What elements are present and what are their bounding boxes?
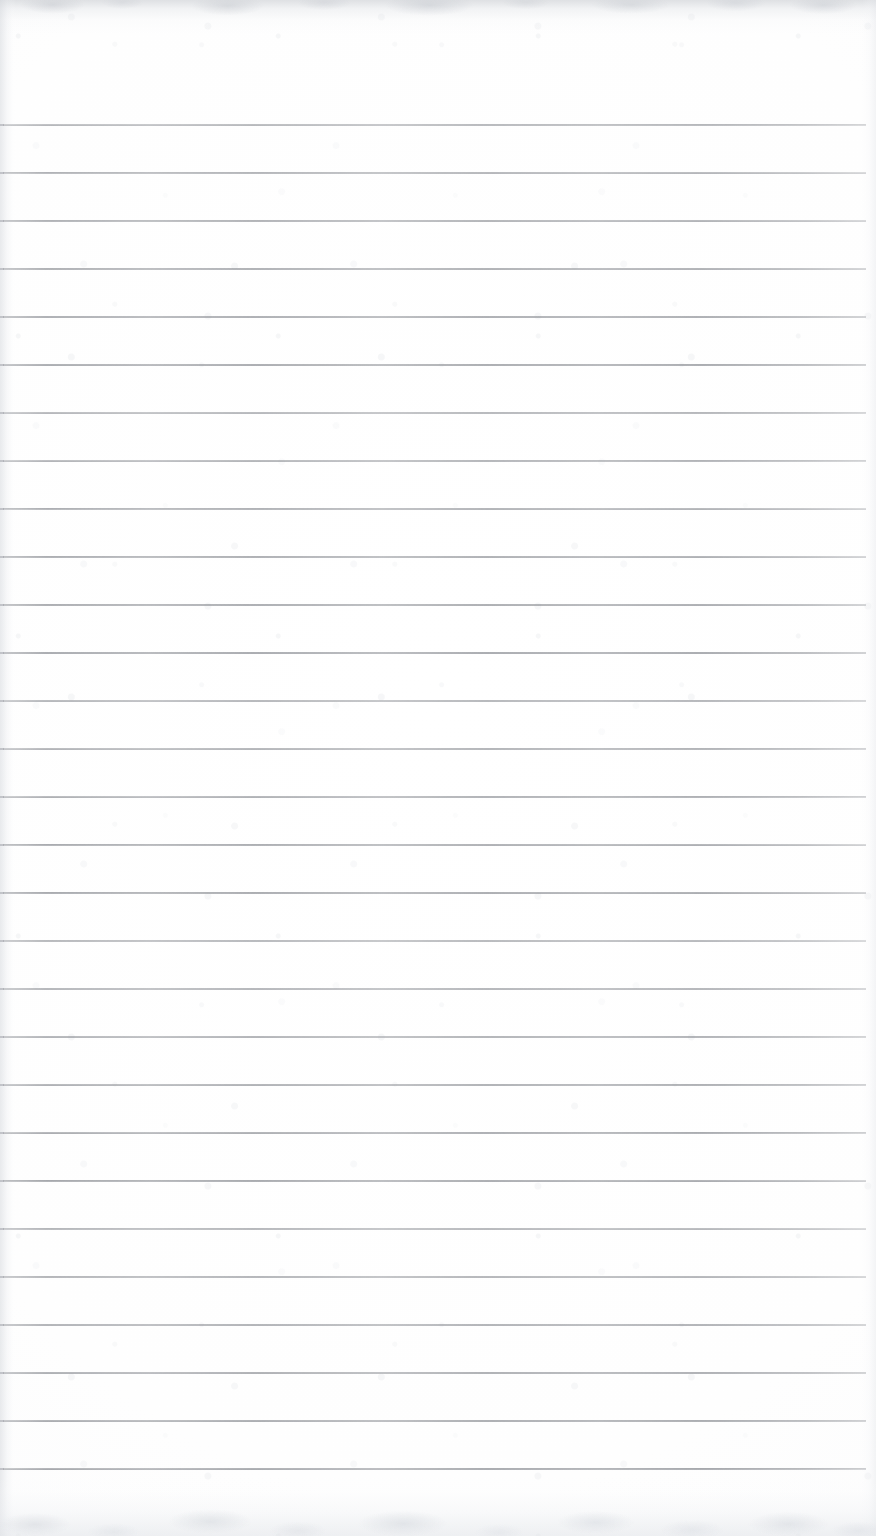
ruled-line-left-cap	[0, 940, 4, 942]
ruled-line-left-cap	[0, 796, 4, 798]
notepad-line-row[interactable]	[3, 848, 866, 890]
ruled-line	[3, 1276, 866, 1278]
notepad-line-row[interactable]	[3, 464, 866, 506]
ruled-line	[3, 1420, 866, 1422]
ruled-line	[3, 940, 866, 942]
ruled-line-left-cap	[0, 1180, 4, 1182]
notepad-line-row[interactable]	[3, 656, 866, 698]
ruled-line	[3, 364, 866, 366]
ruled-line	[3, 1372, 866, 1374]
ruled-line-left-cap	[0, 892, 4, 894]
notepad-line-row[interactable]	[3, 272, 866, 314]
ruled-line-left-cap	[0, 700, 4, 702]
notepad-line-row[interactable]	[3, 1328, 866, 1370]
ruled-line-left-cap	[0, 1132, 4, 1134]
ruled-line-left-cap	[0, 1324, 4, 1326]
ruled-line-left-cap	[0, 220, 4, 222]
ruled-line-left-cap	[0, 1228, 4, 1230]
notepad-line-row[interactable]	[3, 944, 866, 986]
ruled-line	[3, 316, 866, 318]
notepad-line-row[interactable]	[3, 1136, 866, 1178]
ruled-line-left-cap	[0, 604, 4, 606]
ruled-line-left-cap	[0, 1036, 4, 1038]
ruled-line	[3, 604, 866, 606]
ruled-line-left-cap	[0, 172, 4, 174]
ruled-line-left-cap	[0, 1372, 4, 1374]
notepad-line-row[interactable]	[3, 704, 866, 746]
ruled-line	[3, 460, 866, 462]
notepad-line-row[interactable]	[3, 752, 866, 794]
ruled-line	[3, 220, 866, 222]
ruled-line	[3, 748, 866, 750]
notepad-line-row[interactable]	[3, 1424, 866, 1466]
notepad-line-row[interactable]	[3, 80, 866, 122]
ruled-line-left-cap	[0, 988, 4, 990]
ruled-line-left-cap	[0, 1420, 4, 1422]
ruled-line-left-cap	[0, 124, 4, 126]
ruled-line	[3, 124, 866, 126]
ruled-line	[3, 1324, 866, 1326]
ruled-line-left-cap	[0, 412, 4, 414]
ruled-line	[3, 412, 866, 414]
ruled-line-left-cap	[0, 1084, 4, 1086]
notepad-line-row[interactable]	[3, 128, 866, 170]
notepad-line-row[interactable]	[3, 992, 866, 1034]
ruled-line-left-cap	[0, 1468, 4, 1470]
ruled-line	[3, 556, 866, 558]
ruled-line-left-cap	[0, 1276, 4, 1278]
ruled-line	[3, 1468, 866, 1470]
notepad-line-row[interactable]	[3, 800, 866, 842]
ruled-line	[3, 1180, 866, 1182]
ruled-line	[3, 844, 866, 846]
notepad-line-row[interactable]	[3, 224, 866, 266]
ruled-line-left-cap	[0, 364, 4, 366]
ruled-line	[3, 1036, 866, 1038]
ruled-line	[3, 652, 866, 654]
notepad-line-row[interactable]	[3, 512, 866, 554]
notepad-line-row[interactable]	[3, 896, 866, 938]
ruled-line	[3, 988, 866, 990]
ruled-line	[3, 508, 866, 510]
notepad-line-row[interactable]	[3, 1184, 866, 1226]
ruled-line-left-cap	[0, 748, 4, 750]
ruled-line	[3, 1228, 866, 1230]
ruled-line-left-cap	[0, 652, 4, 654]
ruled-line	[3, 172, 866, 174]
notepad-line-row[interactable]	[3, 1232, 866, 1274]
ruled-line-left-cap	[0, 316, 4, 318]
ruled-line-left-cap	[0, 268, 4, 270]
ruled-line	[3, 796, 866, 798]
notepad-line-row[interactable]	[3, 416, 866, 458]
notepad-line-row[interactable]	[3, 560, 866, 602]
notepad-line-row[interactable]	[3, 1376, 866, 1418]
notepad-line-row[interactable]	[3, 320, 866, 362]
ruled-line-left-cap	[0, 844, 4, 846]
ruled-line	[3, 1132, 866, 1134]
notepad-line-row[interactable]	[3, 1040, 866, 1082]
ruled-line	[3, 700, 866, 702]
ruled-line-left-cap	[0, 556, 4, 558]
ruled-line	[3, 1084, 866, 1086]
ruled-line	[3, 268, 866, 270]
notepad-line-row[interactable]	[3, 608, 866, 650]
ruled-line	[3, 892, 866, 894]
ruled-line-layer	[0, 0, 876, 1536]
scanned-page	[0, 0, 876, 1536]
notepad-line-row[interactable]	[3, 1280, 866, 1322]
ruled-line-left-cap	[0, 460, 4, 462]
notepad-line-row[interactable]	[3, 1088, 866, 1130]
ruled-line-left-cap	[0, 508, 4, 510]
notepad-line-row[interactable]	[3, 176, 866, 218]
notepad-line-row[interactable]	[3, 368, 866, 410]
